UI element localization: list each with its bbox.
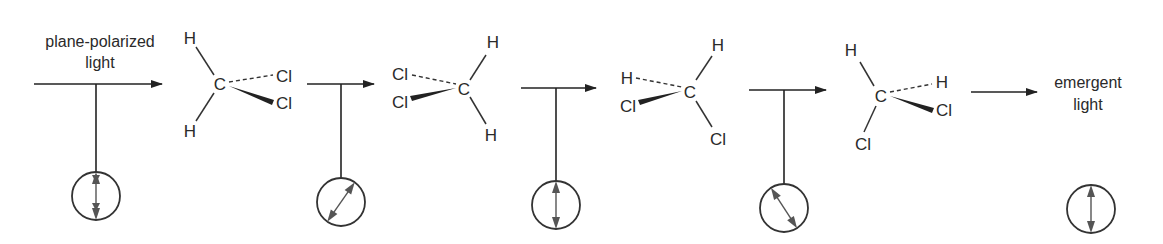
input-label-line2: light	[85, 54, 115, 71]
molecule-4: C H H Cl Cl	[845, 41, 952, 154]
atom-cl: Cl	[710, 130, 726, 149]
double-arrow-icon	[324, 180, 358, 224]
atom-c: C	[684, 83, 696, 102]
atom-c: C	[875, 87, 887, 106]
atom-h: H	[845, 41, 857, 60]
atom-cl: Cl	[936, 101, 952, 120]
molecule-2: C Cl Cl H H	[392, 33, 499, 145]
polarization-diagram: plane-polarized light emergent light C H…	[0, 0, 1163, 244]
atom-cl: Cl	[620, 97, 636, 116]
stage-after-molecule-1	[307, 84, 374, 226]
double-arrow-icon	[1087, 185, 1095, 233]
stage-incident	[34, 84, 162, 220]
double-arrow-icon	[92, 172, 100, 220]
double-arrow-icon	[552, 181, 560, 229]
atom-cl: Cl	[855, 135, 871, 154]
stage-after-molecule-3	[749, 90, 826, 232]
atom-h: H	[487, 33, 499, 52]
stage-after-molecule-2	[521, 88, 596, 229]
atom-c: C	[458, 80, 470, 99]
atom-h: H	[936, 73, 948, 92]
atom-cl: Cl	[276, 94, 292, 113]
atom-cl: Cl	[276, 67, 292, 86]
molecule-3: C H H Cl Cl	[620, 36, 726, 149]
atom-h: H	[184, 122, 196, 141]
stage-emergent	[971, 92, 1115, 233]
atom-c: C	[214, 75, 226, 94]
input-label-line1: plane-polarized	[45, 33, 154, 50]
atom-h: H	[712, 36, 724, 55]
atom-cl: Cl	[392, 93, 408, 112]
atom-h: H	[621, 69, 633, 88]
output-label-line2: light	[1073, 96, 1103, 113]
atom-h: H	[485, 126, 497, 145]
output-label-line1: emergent	[1054, 74, 1122, 91]
atom-cl: Cl	[392, 65, 408, 84]
atom-h: H	[184, 29, 196, 48]
double-arrow-icon	[768, 186, 801, 231]
molecule-1: C H Cl Cl H	[184, 29, 292, 141]
